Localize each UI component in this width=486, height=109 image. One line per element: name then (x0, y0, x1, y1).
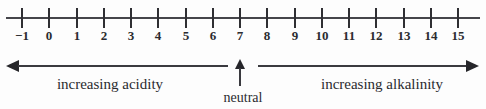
caption-increasing-alkalinity: increasing alkalinity (292, 76, 472, 93)
caption-neutral: neutral (193, 90, 293, 106)
axis-tick (130, 8, 132, 28)
ph-number-line: −1 0 1 2 3 4 5 6 7 8 9 10 11 12 13 14 15 (0, 0, 486, 50)
alkalinity-arrow-shaft (258, 65, 468, 67)
axis-tick (185, 8, 187, 28)
axis-tick (212, 8, 214, 28)
arrowhead-right-icon (466, 60, 479, 72)
axis-tick (348, 8, 350, 28)
axis-tick (76, 8, 78, 28)
axis-tick (457, 8, 459, 28)
axis-tick (375, 8, 377, 28)
ph-scale-figure: −1 0 1 2 3 4 5 6 7 8 9 10 11 12 13 14 15… (0, 0, 486, 109)
axis-tick-label: 15 (438, 28, 478, 44)
caption-increasing-acidity: increasing acidity (20, 76, 200, 93)
axis-tick (321, 8, 323, 28)
axis-tick (430, 8, 432, 28)
axis-tick (403, 8, 405, 28)
axis-tick (294, 8, 296, 28)
axis-tick (48, 8, 50, 28)
axis-tick (239, 8, 241, 28)
neutral-pointer-shaft (239, 68, 241, 86)
axis-tick (103, 8, 105, 28)
axis-tick (21, 8, 23, 28)
acidity-arrow-shaft (18, 65, 228, 67)
axis-tick (266, 8, 268, 28)
axis-tick (157, 8, 159, 28)
